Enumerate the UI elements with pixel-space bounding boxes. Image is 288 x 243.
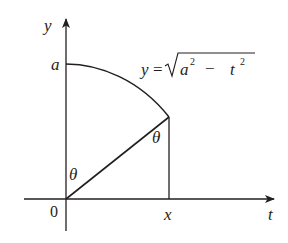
svg-text:−: − xyxy=(205,59,215,78)
svg-text:2: 2 xyxy=(240,56,245,67)
theta-point-label: θ xyxy=(152,128,160,147)
svg-text:t: t xyxy=(230,60,236,79)
x-label: x xyxy=(163,205,172,224)
origin-label: 0 xyxy=(50,203,58,220)
equation-label: y = a 2 − t 2 xyxy=(139,53,255,79)
svg-text:a: a xyxy=(180,60,189,79)
svg-text:2: 2 xyxy=(190,56,195,67)
svg-text:y: y xyxy=(139,60,149,79)
a-label: a xyxy=(51,55,60,74)
theta-origin-label: θ xyxy=(69,165,77,184)
diagram-canvas: y a 0 x t θ θ y = a 2 − t 2 xyxy=(0,0,288,243)
t-axis-label: t xyxy=(268,205,274,224)
y-axis-label: y xyxy=(42,16,52,35)
svg-text:=: = xyxy=(153,60,163,79)
